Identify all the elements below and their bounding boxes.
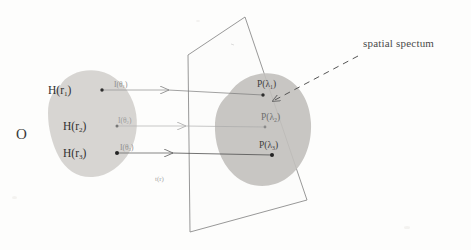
ray-label-theta-1-sub: 1 [123, 84, 125, 89]
ray-label-theta-2: I(θ2) [118, 117, 131, 125]
figure-canvas: O H(r1) H(r2) H(r3) I(θ1) I(θ2) I(θ3) t(… [0, 0, 471, 250]
source-dot-1 [100, 88, 103, 91]
spectrum-label-p-lambda1-tail: ) [273, 79, 276, 89]
source-label-h-r3-head: H(r [63, 147, 79, 159]
spectrum-dot-3 [270, 153, 274, 157]
spectrum-label-p-lambda2-tail: ) [277, 112, 280, 122]
source-label-h-r2: H(r2) [63, 121, 86, 133]
scan-speckle [404, 226, 410, 229]
object-label-O: O [16, 127, 27, 142]
spectrum-label-p-lambda3-tail: ) [275, 140, 278, 150]
source-label-h-r1-sub: 1 [64, 90, 68, 98]
ray-label-theta-3-head: I(θ [120, 143, 129, 152]
spectrum-label-p-lambda3-head: P(λ [259, 140, 272, 150]
spectrum-label-p-lambda2-sub: 2 [274, 117, 277, 123]
scan-speckle [196, 20, 200, 22]
spectrum-label-p-lambda1-head: P(λ [257, 79, 270, 89]
spectrum-dot-2 [264, 126, 267, 129]
ray-label-theta-3: I(θ3) [120, 144, 133, 152]
ray-label-theta-2-sub: 2 [127, 120, 129, 125]
source-label-h-r3-tail: ) [83, 147, 87, 159]
source-dot-3 [115, 151, 119, 155]
ray-label-theta-3-tail: ) [131, 143, 134, 152]
ray-label-theta-2-head: I(θ [118, 116, 127, 125]
spectrum-label-p-lambda3: P(λ3) [259, 141, 278, 151]
source-label-h-r2-sub: 2 [79, 126, 83, 134]
spectrum-dot-1 [261, 93, 264, 96]
plane-transmittance-label: t(r) [155, 176, 164, 183]
spectrum-label-p-lambda1-sub: 1 [270, 84, 273, 90]
ray-label-theta-1-head: I(θ [114, 80, 123, 89]
source-label-h-r2-tail: ) [83, 120, 87, 132]
ray-label-theta-3-sub: 3 [129, 147, 131, 152]
ray-label-theta-2-tail: ) [129, 116, 132, 125]
ray-label-theta-1: I(θ1) [114, 81, 127, 89]
spectrum-label-p-lambda2-head: P(λ [261, 112, 274, 122]
spectrum-label-p-lambda3-sub: 3 [272, 145, 275, 151]
spectrum-label-p-lambda1: P(λ1) [257, 80, 276, 90]
source-label-h-r2-head: H(r [63, 120, 79, 132]
source-label-h-r1: H(r1) [48, 85, 71, 97]
source-label-h-r3-sub: 3 [79, 153, 83, 161]
spatial-spectrum-caption: spatial spectum [363, 38, 434, 49]
ray-label-theta-1-tail: ) [125, 80, 128, 89]
source-label-h-r1-tail: ) [68, 84, 72, 96]
spectrum-label-p-lambda2: P(λ2) [261, 113, 280, 123]
source-label-h-r1-head: H(r [48, 84, 64, 96]
source-label-h-r3: H(r3) [63, 148, 86, 160]
scan-speckle [12, 196, 17, 199]
